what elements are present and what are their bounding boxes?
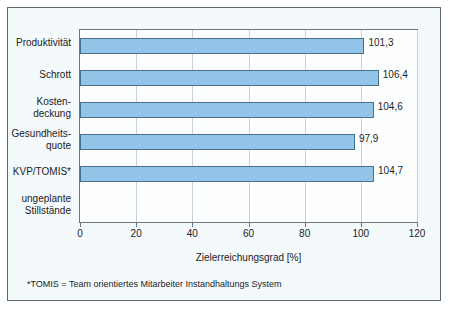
bar-series: 101,3106,4104,697,9104,7: [80, 30, 417, 222]
bar-row: 104,6: [80, 94, 417, 126]
category-label-line: deckung: [33, 108, 71, 119]
x-axis-tick: [361, 223, 362, 227]
x-axis-tick-label: 80: [299, 228, 310, 239]
bar-value-label: 97,9: [359, 133, 378, 144]
bar-row: [80, 190, 417, 222]
category-axis-labels: Produktivität Schrott Kosten- deckung Ge…: [0, 29, 75, 223]
category-label: Schrott: [0, 69, 71, 81]
x-axis-tick: [136, 223, 137, 227]
x-axis-tick-labels: 020406080100120: [79, 228, 418, 242]
bar-value-label: 104,7: [378, 165, 403, 176]
x-axis-tick: [417, 223, 418, 227]
category-label: ungeplante Stillstände: [0, 193, 71, 216]
footnote-text: *TOMIS = Team orientiertes Mitarbeiter I…: [27, 279, 282, 289]
bar[interactable]: [80, 166, 374, 182]
category-label: KVP/TOMIS*: [0, 166, 71, 178]
x-axis-title: Zielerreichungsgrad [%]: [79, 252, 418, 263]
category-label-line: ungeplante: [22, 193, 72, 204]
bar-value-label: 106,4: [383, 69, 408, 80]
bar-row: 104,7: [80, 158, 417, 190]
gridline: [417, 30, 418, 222]
category-label-line: Stillstände: [25, 205, 71, 216]
x-axis-tick: [192, 223, 193, 227]
category-label-line: Produktivität: [16, 37, 71, 48]
x-axis-tick-label: 40: [187, 228, 198, 239]
bar[interactable]: [80, 38, 364, 54]
category-label-line: Gesundheits-: [12, 128, 71, 139]
x-axis-tick-label: 0: [77, 228, 83, 239]
x-axis-tick-label: 120: [409, 228, 426, 239]
category-label-line: KVP/TOMIS*: [13, 166, 71, 177]
bar-row: 106,4: [80, 62, 417, 94]
bar-row: 101,3: [80, 30, 417, 62]
x-axis-tick: [249, 223, 250, 227]
x-axis-tick: [80, 223, 81, 227]
bar[interactable]: [80, 134, 355, 150]
bar-row: 97,9: [80, 126, 417, 158]
bar-value-label: 101,3: [368, 37, 393, 48]
category-label-line: Kosten-: [37, 96, 71, 107]
category-label-line: quote: [46, 140, 71, 151]
plot-area: 101,3106,4104,697,9104,7: [79, 29, 418, 223]
bar[interactable]: [80, 102, 374, 118]
x-axis-tick-label: 20: [131, 228, 142, 239]
category-label: Kosten- deckung: [0, 96, 71, 119]
x-axis-tick-label: 60: [243, 228, 254, 239]
bar-value-label: 104,6: [378, 101, 403, 112]
bar[interactable]: [80, 70, 379, 86]
category-label-line: Schrott: [39, 69, 71, 80]
x-axis-tick: [305, 223, 306, 227]
category-label: Gesundheits- quote: [0, 128, 71, 151]
category-label: Produktivität: [0, 37, 71, 49]
x-axis-tick-label: 100: [352, 228, 369, 239]
chart-figure: Produktivität Schrott Kosten- deckung Ge…: [0, 0, 451, 311]
